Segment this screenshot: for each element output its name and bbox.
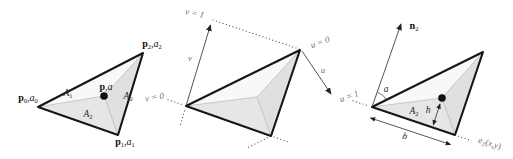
figure-canvas: p0,a0 p2,a2 p1,a1 p,a A1 A0 A2 v = 1 v v… <box>0 0 513 159</box>
v-axis-extension-dotted <box>180 111 185 127</box>
u-axis-arrow <box>302 51 331 94</box>
label-e2xy: e2(x,y) <box>477 135 503 153</box>
label-u-eq-0: u = 0 <box>309 34 331 50</box>
label-v-eq-0: v = 0 <box>144 90 165 103</box>
label-angle-a: a <box>384 84 389 94</box>
parametric-diagram: v = 1 v v = 0 u = 0 u u = 1 <box>144 6 360 147</box>
edge-function-diagram: n2 a A2 h b e2(x,y) <box>353 20 503 152</box>
vertex-label-p1a1: p1,a1 <box>115 136 135 148</box>
sample-point-dot <box>438 94 446 102</box>
vertex-label-p0a0: p0,a0 <box>18 92 38 104</box>
label-v-eq-1: v = 1 <box>184 6 205 20</box>
iso-line-v1-dotted <box>213 20 301 50</box>
label-v-axis: v <box>188 53 192 63</box>
barycentric-diagram: p0,a0 p2,a2 p1,a1 p,a A1 A0 A2 <box>18 38 162 148</box>
label-b: b <box>401 131 409 142</box>
iso-line-v0-extension-dotted <box>274 137 291 143</box>
label-h: h <box>426 105 431 115</box>
point-p-dot <box>100 92 108 100</box>
figure-triangle-coordinates: p0,a0 p2,a2 p1,a1 p,a A1 A0 A2 v = 1 v v… <box>0 0 513 159</box>
point-label-pa: p,a <box>99 81 112 92</box>
vertex-label-p2a2: p2,a2 <box>142 38 162 50</box>
label-u-axis: u <box>321 65 326 75</box>
iso-line-u1-extension-dotted <box>248 138 268 148</box>
edge-extension-right-dotted <box>459 136 471 140</box>
label-n2: n2 <box>410 20 419 32</box>
edge-extension-left-dotted <box>353 101 368 106</box>
v-axis-arrow <box>186 25 211 106</box>
iso-line-v0-dotted <box>168 100 183 105</box>
